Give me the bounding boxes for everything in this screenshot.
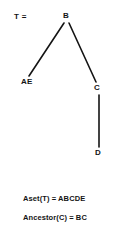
edge-b-c [69, 23, 96, 82]
tree-node-d: D [95, 149, 101, 157]
caption-aset: Aset(T) = ABCDE [23, 195, 85, 203]
edge-b-ae [29, 23, 64, 76]
tree-node-c: C [94, 84, 100, 92]
tree-node-ae: AE [21, 78, 33, 86]
caption-ancestor: Ancestor(C) = BC [23, 214, 87, 222]
tree-figure: T = B AE C D Aset(T) = ABCDE Ancestor(C)… [0, 0, 115, 235]
tree-node-b: B [63, 12, 69, 20]
